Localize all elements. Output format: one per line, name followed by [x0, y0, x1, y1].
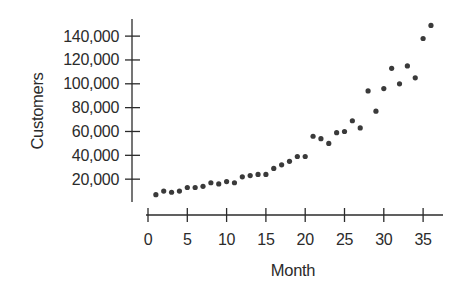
data-point [232, 180, 237, 185]
y-tick-label: 20,000 [72, 171, 120, 188]
scatter-chart: 20,00040,00060,00080,000100,000120,00014… [0, 0, 476, 293]
y-axis: 20,00040,00060,00080,000100,000120,00014… [63, 19, 140, 202]
x-tick-label: 35 [414, 231, 432, 248]
data-point [342, 129, 347, 134]
data-points [153, 23, 433, 197]
data-point [310, 134, 315, 139]
data-point [279, 162, 284, 167]
data-point [185, 185, 190, 190]
data-point [248, 173, 253, 178]
x-axis-title: Month [271, 261, 315, 279]
y-tick-label: 140,000 [63, 28, 119, 45]
data-point [153, 192, 158, 197]
data-point [287, 159, 292, 164]
x-axis: 05101520253035 [144, 208, 443, 248]
data-point [161, 188, 166, 193]
data-point [381, 86, 386, 91]
y-tick-label: 60,000 [72, 123, 120, 140]
y-tick-label: 120,000 [63, 51, 119, 68]
y-axis-title: Customers [28, 72, 46, 149]
data-point [373, 109, 378, 114]
data-point [271, 166, 276, 171]
data-point [365, 88, 370, 93]
data-point [428, 23, 433, 28]
x-tick-label: 20 [297, 231, 315, 248]
data-point [240, 174, 245, 179]
data-point [216, 181, 221, 186]
data-point [193, 185, 198, 190]
data-point [350, 118, 355, 123]
data-point [397, 81, 402, 86]
data-point [389, 66, 394, 71]
data-point [358, 125, 363, 130]
x-axis-ticks: 05101520253035 [144, 208, 432, 248]
data-point [295, 154, 300, 159]
data-point [405, 63, 410, 68]
y-axis-ticks: 20,00040,00060,00080,000100,000120,00014… [63, 28, 140, 188]
data-point [326, 141, 331, 146]
x-tick-label: 5 [183, 231, 192, 248]
data-point [413, 75, 418, 80]
y-tick-label: 40,000 [72, 147, 120, 164]
data-point [208, 180, 213, 185]
data-point [177, 188, 182, 193]
data-point [224, 179, 229, 184]
data-point [200, 184, 205, 189]
y-tick-label: 100,000 [63, 75, 119, 92]
x-tick-label: 25 [336, 231, 354, 248]
y-tick-label: 80,000 [72, 99, 120, 116]
x-tick-label: 15 [257, 231, 275, 248]
data-point [169, 190, 174, 195]
x-tick-label: 30 [375, 231, 393, 248]
data-point [263, 172, 268, 177]
x-tick-label: 0 [144, 231, 153, 248]
data-point [255, 172, 260, 177]
chart-canvas: 20,00040,00060,00080,000100,000120,00014… [0, 0, 476, 293]
data-point [318, 136, 323, 141]
data-point [303, 154, 308, 159]
x-tick-label: 10 [218, 231, 236, 248]
data-point [334, 130, 339, 135]
data-point [421, 36, 426, 41]
